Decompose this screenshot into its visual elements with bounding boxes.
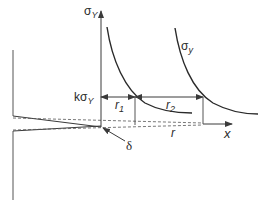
subscript: Y	[91, 10, 97, 20]
x-axis-label: x	[224, 127, 231, 140]
delta-pointer	[103, 128, 125, 141]
r2-label: r2	[166, 99, 175, 111]
subscript: 2	[170, 104, 175, 114]
crack-face-upper	[13, 116, 101, 127]
sigma-y-axis-label: σY	[84, 5, 97, 17]
subscript: Y	[87, 96, 93, 106]
subscript: y	[188, 45, 193, 55]
dashed-upper	[13, 118, 203, 123]
sigma-y-curve-label: σy	[181, 40, 193, 52]
r-label: r	[171, 127, 175, 139]
r1-label: r1	[115, 99, 124, 111]
subscript: 1	[119, 104, 124, 114]
k-sigma-y-label: kσY	[74, 91, 93, 103]
crack-tip-diagram	[0, 0, 270, 208]
crack-face-lower	[13, 126, 101, 131]
delta-label: δ	[126, 139, 132, 152]
